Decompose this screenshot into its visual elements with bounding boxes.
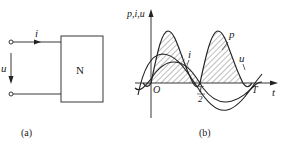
- voltage-label: u: [1, 62, 7, 74]
- x-axis-label: t: [272, 86, 276, 98]
- voltage-arrow-icon: [9, 76, 14, 84]
- voltage-leader: [243, 64, 245, 70]
- caption-a: (a): [21, 127, 32, 139]
- current-arrow-icon: [34, 40, 41, 45]
- bottom-terminal: [9, 92, 13, 96]
- y-axis-label: p,i,u: [126, 8, 145, 19]
- y-axis-arrow-icon: [149, 9, 154, 17]
- waveform-plot: p i u p,i,u t O T 2 T (b): [126, 8, 278, 139]
- top-terminal: [9, 40, 13, 44]
- power-label: p: [228, 28, 235, 40]
- circuit-diagram: i u N (a): [1, 27, 103, 139]
- current-label: i: [35, 27, 38, 39]
- x-axis-arrow-icon: [270, 81, 278, 86]
- current-label: i: [188, 48, 191, 60]
- period-label: T: [252, 84, 259, 95]
- origin-label: O: [153, 84, 160, 95]
- voltage-label: u: [239, 52, 245, 64]
- caption-b: (b): [199, 127, 211, 139]
- figure-canvas: i u N (a) p i: [0, 0, 283, 145]
- network-label: N: [76, 64, 84, 76]
- half-period-denominator: 2: [198, 94, 203, 104]
